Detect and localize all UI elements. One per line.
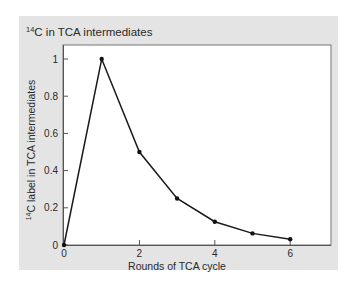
x-tick-label: 6 <box>287 248 293 259</box>
data-point <box>175 196 179 200</box>
y-tick-label: 0 <box>52 240 58 251</box>
x-tick-label: 2 <box>137 248 143 259</box>
y-axis-label: 14C label in TCA intermediates <box>25 80 37 221</box>
x-axis-label: Rounds of TCA cycle <box>128 260 226 272</box>
data-point <box>137 150 141 154</box>
x-tick-label: 0 <box>61 248 67 259</box>
data-point <box>288 237 292 241</box>
ylabel-superscript: 14 <box>25 213 32 221</box>
data-point <box>213 220 217 224</box>
y-tick-label: 0.4 <box>44 165 58 176</box>
data-point <box>62 243 66 247</box>
x-tick-label: 4 <box>212 248 218 259</box>
plot-area <box>63 45 331 245</box>
line-chart: 00.20.40.60.81 0246 <box>0 0 353 294</box>
y-tick-label: 0.2 <box>44 202 58 213</box>
y-tick-label: 0.6 <box>44 128 58 139</box>
data-point <box>250 231 254 235</box>
y-tick-label: 0.8 <box>44 91 58 102</box>
y-tick-label: 1 <box>52 54 58 65</box>
ylabel-text: C label in TCA intermediates <box>25 80 37 213</box>
data-point <box>100 57 104 61</box>
